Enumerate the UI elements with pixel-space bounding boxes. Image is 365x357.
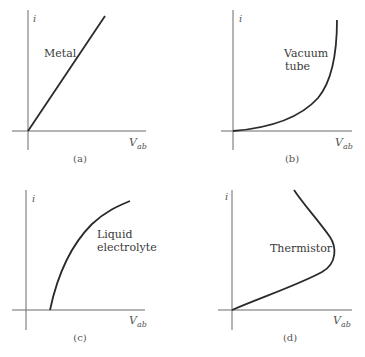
x-axis-label: Vab <box>129 314 147 329</box>
panel-d: i Thermistor Vab (d) <box>218 190 352 343</box>
iv-characteristics-figure: i Metal Vab (a) i Vacuum tube Vab (b) i … <box>0 0 365 357</box>
curve-label-line1: Liquid <box>97 228 133 241</box>
panel-caption: (b) <box>285 153 299 164</box>
curve-label-line2: electrolyte <box>97 241 157 254</box>
metal-curve <box>28 16 105 131</box>
panel-caption: (c) <box>73 332 87 343</box>
y-axis-label: i <box>32 193 35 204</box>
curve-label-line2: tube <box>285 60 310 73</box>
y-axis-label: i <box>225 191 228 202</box>
curve-label-line1: Vacuum <box>283 47 329 60</box>
panel-c: i Liquid electrolyte Vab (c) <box>12 190 157 343</box>
vacuum-tube-curve <box>233 20 337 131</box>
panel-caption: (a) <box>73 153 87 164</box>
panel-b: i Vacuum tube Vab (b) <box>221 10 353 164</box>
panel-a: i Metal Vab (a) <box>12 10 147 164</box>
x-axis-label: Vab <box>129 136 147 151</box>
panel-caption: (d) <box>283 332 297 343</box>
y-axis-label: i <box>239 13 242 24</box>
curve-label: Thermistor <box>270 242 333 255</box>
x-axis-label: Vab <box>333 314 351 329</box>
curve-label: Metal <box>44 47 77 60</box>
liquid-electrolyte-curve <box>50 201 130 310</box>
y-axis-label: i <box>33 13 36 24</box>
x-axis-label: Vab <box>335 136 353 151</box>
